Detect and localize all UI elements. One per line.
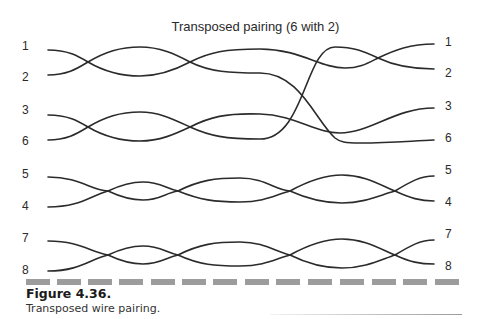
figure-caption-title: Figure 4.36.: [26, 286, 111, 301]
wire-3: [48, 108, 434, 141]
wire-4: [48, 175, 434, 207]
wire-8: [48, 239, 434, 271]
wire-5: [48, 176, 434, 203]
wire-1: [48, 44, 434, 76]
wire-6: [48, 47, 434, 140]
wire-diagram: [0, 0, 481, 319]
wire-7: [48, 240, 434, 268]
figure-caption-text: Transposed wire pairing.: [26, 302, 160, 315]
bottom-rule: [270, 314, 462, 315]
dashed-separator: [26, 279, 459, 285]
wire-2: [48, 47, 434, 143]
